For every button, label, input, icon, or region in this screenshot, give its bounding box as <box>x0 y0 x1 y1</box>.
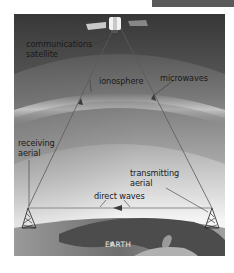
receiving-label-line2: aerial <box>18 148 55 158</box>
direct-waves-label: direct waves <box>94 191 145 201</box>
transmitting-label-line2: aerial <box>130 178 179 188</box>
receiving-label-line1: receiving <box>18 138 55 148</box>
header-bar <box>152 0 234 7</box>
transmitting-aerial-label: transmitting aerial <box>130 168 179 188</box>
earth-label: EARTH <box>105 240 131 250</box>
satellite-label-line2: satellite <box>26 49 92 59</box>
receiving-aerial-label: receiving aerial <box>18 138 55 158</box>
satellite-label: communications satellite <box>26 39 92 59</box>
diagram-frame: communications satellite ionosphere micr… <box>14 14 225 256</box>
transmitting-label-line1: transmitting <box>130 168 179 178</box>
microwaves-label: microwaves <box>160 73 208 83</box>
satellite-label-line1: communications <box>26 39 92 49</box>
ionosphere-label: ionosphere <box>99 76 143 86</box>
